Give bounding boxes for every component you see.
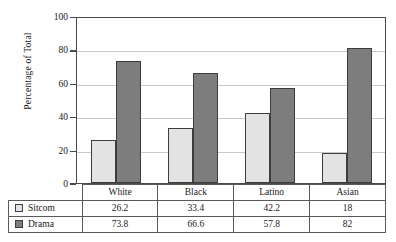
cell-sitcom-white: 26.2	[82, 201, 158, 217]
gridline-80	[77, 51, 385, 52]
data-table: White Black Latino Asian Sitcom 26.2 33.…	[8, 184, 386, 233]
table-corner-blank	[9, 185, 83, 201]
cell-sitcom-black: 33.4	[158, 201, 234, 217]
category-header-black: Black	[158, 185, 234, 201]
category-header-asian: Asian	[310, 185, 386, 201]
drama-swatch-icon	[15, 220, 23, 228]
bar-drama-white	[116, 61, 141, 183]
y-tick-label-60: 60	[24, 79, 68, 89]
sitcom-swatch-icon	[15, 204, 23, 212]
legend-item-sitcom: Sitcom	[9, 201, 83, 217]
legend-label-sitcom: Sitcom	[28, 203, 55, 213]
chart-figure: Percentage of Total 100 80 60 40 20 0 Wh…	[0, 0, 396, 242]
table-row-categories: White Black Latino Asian	[9, 185, 386, 201]
cell-sitcom-asian: 18	[310, 201, 386, 217]
category-header-white: White	[82, 185, 158, 201]
cell-drama-latino: 57.8	[234, 217, 310, 233]
y-tick-label-40: 40	[24, 112, 68, 122]
cell-drama-black: 66.6	[158, 217, 234, 233]
table-row-sitcom: Sitcom 26.2 33.4 42.2 18	[9, 201, 386, 217]
cell-drama-white: 73.8	[82, 217, 158, 233]
bar-sitcom-black	[168, 128, 193, 183]
bar-sitcom-asian	[322, 153, 347, 183]
y-tick-label-20: 20	[24, 146, 68, 156]
bar-drama-latino	[270, 88, 295, 183]
bar-drama-asian	[347, 48, 372, 183]
bar-sitcom-latino	[245, 113, 270, 183]
legend-item-drama: Drama	[9, 217, 83, 233]
category-header-latino: Latino	[234, 185, 310, 201]
y-tick-label-100: 100	[24, 12, 68, 22]
table-row-drama: Drama 73.8 66.6 57.8 82	[9, 217, 386, 233]
plot-area	[76, 17, 386, 184]
bar-sitcom-white	[91, 140, 116, 183]
legend-label-drama: Drama	[28, 219, 54, 229]
cell-drama-asian: 82	[310, 217, 386, 233]
y-tick-label-80: 80	[24, 45, 68, 55]
bar-drama-black	[193, 73, 218, 183]
cell-sitcom-latino: 42.2	[234, 201, 310, 217]
